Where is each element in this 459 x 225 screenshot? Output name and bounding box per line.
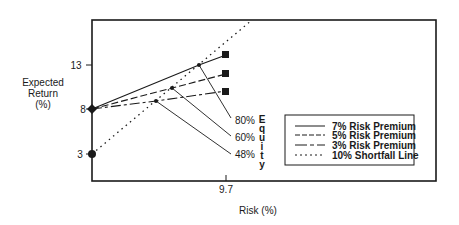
leader-48pct <box>156 101 231 154</box>
marker-5pct-end <box>222 70 229 77</box>
equity-label-48: 48% <box>235 149 255 160</box>
x-axis-title: Risk (%) <box>239 205 277 216</box>
y-axis-title-line2: Return <box>28 88 58 99</box>
y-tick-label-13: 13 <box>70 60 82 71</box>
marker-3pct-end <box>222 88 229 95</box>
series-3pct-risk-premium <box>92 91 226 109</box>
legend: 7% Risk Premium 5% Risk Premium 3% Risk … <box>285 115 419 165</box>
y-axis-title-line3: (%) <box>35 99 51 110</box>
marker-origin-diamond <box>87 104 97 114</box>
marker-shortfall-origin <box>88 150 96 158</box>
leader-60pct <box>172 88 231 136</box>
y-tick-label-3: 3 <box>77 149 83 160</box>
equity-letter-y: y <box>259 159 265 170</box>
legend-label-shortfall: 10% Shortfall Line <box>332 150 419 161</box>
series-5pct-risk-premium <box>92 74 226 109</box>
equity-label-60: 60% <box>235 132 255 143</box>
y-axis-title-line1: Expected <box>22 77 64 88</box>
x-tick-label-9-7: 9.7 <box>219 184 233 195</box>
series-7pct-risk-premium <box>92 55 226 109</box>
y-tick-label-8: 8 <box>80 104 86 115</box>
marker-7pct-end <box>222 51 229 58</box>
equity-label-80: 80% <box>235 115 255 126</box>
chart-canvas: 13 8 3 9.7 Expected Return (%) Risk (%) … <box>0 0 459 225</box>
